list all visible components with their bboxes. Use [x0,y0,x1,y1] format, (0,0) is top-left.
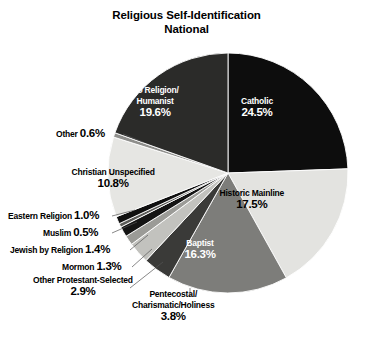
callout-text: Jewish by Religion [10,245,85,255]
leader-line-other-protestant-selected [130,262,163,288]
callout-text: Pentecostal/ [132,289,214,300]
slice-label-percent: 17.5% [220,199,285,210]
callout-other-protestant-selected: Other Protestant-Selected2.9% [33,275,133,297]
callout-percent: 0.6% [80,127,105,139]
callout-text: Mormon [62,262,96,272]
callout-percent: 0.5% [73,226,98,238]
slice-label-percent: 10.8% [72,178,155,189]
callout-mormon: Mormon 1.3% [62,261,122,273]
callout-percent: 1.3% [96,260,121,272]
callout-other: Other 0.6% [56,128,105,140]
slice-label-catholic: Catholic24.5% [241,96,273,118]
slice-label-christian-unspecified: Christian Unspecified10.8% [72,167,155,189]
callout-text: Eastern Religion [8,211,74,221]
slice-label-historic-mainline: Historic Mainline17.5% [220,188,285,210]
slice-label-percent: 24.5% [241,107,273,118]
callout-text: Other [56,129,80,139]
slice-label-percent: 19.6% [132,107,179,118]
callout-jewish-by-religion: Jewish by Religion 1.4% [10,244,110,256]
callout-percent: 1.4% [85,243,110,255]
chart-root: Religious Self-Identification National C… [0,0,373,343]
callout-muslim: Muslim 0.5% [43,227,98,239]
slice-label-name: No Religion/ [132,85,179,96]
callout-percent: 2.9% [33,286,133,297]
slice-label-percent: 16.3% [185,249,216,260]
callout-pentecostal-charismatic-holiness: Pentecostal/Charismatic/Holiness3.8% [132,289,214,322]
slice-label-no-religion-humanist: No Religion/Humanist19.6% [132,85,179,118]
callout-eastern-religion: Eastern Religion 1.0% [8,210,99,222]
callout-text: Muslim [43,228,73,238]
slice-label-baptist: Baptist16.3% [185,238,216,260]
callout-percent: 3.8% [132,311,214,322]
callout-percent: 1.0% [74,209,99,221]
